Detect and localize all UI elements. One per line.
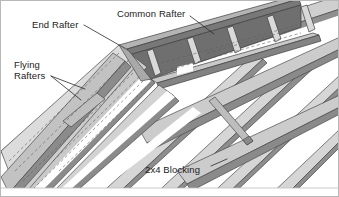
label-common-rafter: Common Rafter [117,8,185,19]
label-end-rafter: End Rafter [32,19,78,30]
label-flying-rafters-line2: Rafters [14,70,45,81]
bottom-margin-strip [1,188,339,197]
label-2x4-blocking: 2x4 Blocking [145,164,200,175]
illustration-frame: End Rafter Common Rafter Flying Rafters … [0,0,339,197]
label-flying-rafters-line1: Flying [14,59,40,70]
